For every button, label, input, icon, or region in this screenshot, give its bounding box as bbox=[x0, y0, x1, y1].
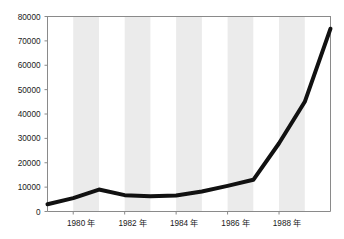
chart-container: 0100002000030000400005000060000700008000… bbox=[0, 0, 344, 239]
y-axis-tick-label: 40000 bbox=[18, 110, 41, 119]
shaded-band bbox=[125, 17, 151, 212]
y-axis-tick-label: 30000 bbox=[18, 134, 41, 143]
x-axis-tick-label: 1984 年 bbox=[170, 218, 199, 228]
y-axis-tick-label: 0 bbox=[36, 208, 41, 217]
y-axis-tick-label: 60000 bbox=[18, 61, 41, 70]
y-axis-tick-label: 10000 bbox=[18, 183, 41, 192]
y-axis-tick-label: 50000 bbox=[18, 86, 41, 95]
x-axis-tick-label: 1980 年 bbox=[67, 218, 96, 228]
shaded-band bbox=[176, 17, 202, 212]
y-axis-tick-label: 20000 bbox=[18, 159, 41, 168]
x-axis-tick-label: 1982 年 bbox=[118, 218, 147, 228]
shaded-band bbox=[73, 17, 99, 212]
y-axis-tick-label: 80000 bbox=[18, 13, 41, 22]
x-axis-tick-label: 1986 年 bbox=[221, 218, 250, 228]
line-chart: 0100002000030000400005000060000700008000… bbox=[0, 0, 344, 239]
x-axis-tick-label: 1988 年 bbox=[273, 218, 302, 228]
shaded-band bbox=[279, 17, 305, 212]
y-axis-tick-label: 70000 bbox=[18, 37, 41, 46]
